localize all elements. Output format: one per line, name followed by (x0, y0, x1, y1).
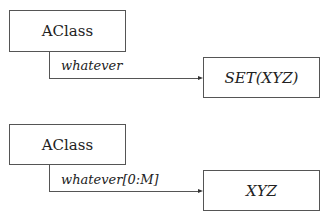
type-box-set-xyz: SET(XYZ) (203, 57, 320, 98)
type-box-xyz: XYZ (203, 170, 320, 211)
relation-label: whatever[0:M] (61, 172, 159, 187)
relation-connector (49, 51, 50, 78)
relation-line (49, 78, 199, 79)
relation-connector (49, 164, 50, 191)
class-box-aclass-1: AClass (9, 10, 126, 52)
class-box-aclass-2: AClass (9, 124, 126, 165)
class-name: AClass (42, 22, 93, 40)
relation-line (49, 191, 199, 192)
type-name: SET(XYZ) (225, 69, 299, 87)
relation-label: whatever (61, 58, 122, 73)
type-name: XYZ (246, 182, 277, 200)
class-name: AClass (42, 136, 93, 154)
